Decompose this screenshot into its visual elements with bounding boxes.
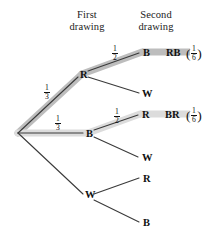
branch-w-to-b <box>94 200 139 222</box>
outcome-br-fraction: 1 6 <box>191 107 198 123</box>
branch-r-to-w <box>88 77 139 93</box>
edge-label-b-to-r: 1 2 <box>114 108 120 124</box>
outcome-br-denominator: 6 <box>191 116 197 124</box>
node-second-draw-r-from-w: R <box>143 173 151 184</box>
column-header-first-line2: drawing <box>56 21 118 33</box>
branch-b-to-w <box>94 137 138 157</box>
column-header-second-line2: drawing <box>121 21 191 33</box>
outcome-rb-close-paren: ) <box>197 48 202 59</box>
node-first-draw-b: B <box>86 128 93 139</box>
node-first-draw-r: R <box>80 69 88 80</box>
column-header-first-drawing: First drawing <box>56 9 118 33</box>
branch-w-to-r <box>94 178 139 194</box>
outcome-probability-br: ( 1 6 ) <box>186 107 202 123</box>
edge-label-root-to-b-denominator: 3 <box>55 124 61 132</box>
node-second-draw-w-from-r: W <box>142 88 153 99</box>
edge-label-root-to-b: 1 3 <box>55 115 61 131</box>
node-second-draw-b-from-r: B <box>143 47 150 58</box>
column-header-second-drawing: Second drawing <box>121 9 191 33</box>
probability-tree-diagram: First drawing Second drawing R B W B W R… <box>0 0 215 244</box>
outcome-label-rb: RB <box>166 47 181 58</box>
outcome-rb-denominator: 6 <box>191 54 197 62</box>
outcome-label-br: BR <box>165 109 180 120</box>
branch-root-to-w <box>18 133 83 194</box>
edge-label-root-to-r: 1 3 <box>44 84 50 100</box>
node-first-draw-w: W <box>85 189 96 200</box>
edge-label-b-to-r-denominator: 2 <box>114 117 120 125</box>
node-second-draw-b-from-w: B <box>143 217 150 228</box>
tree-branches-svg <box>0 0 215 244</box>
edge-label-r-to-b: 1 2 <box>112 45 118 61</box>
edge-label-root-to-r-denominator: 3 <box>44 93 50 101</box>
outcome-br-close-paren: ) <box>197 110 202 121</box>
column-header-first-line1: First <box>56 9 118 21</box>
outcome-probability-rb: ( 1 6 ) <box>186 45 202 61</box>
node-second-draw-w-from-b: W <box>142 152 153 163</box>
outcome-rb-fraction: 1 6 <box>191 45 198 61</box>
node-second-draw-r-from-b: R <box>142 109 150 120</box>
edge-label-r-to-b-denominator: 2 <box>112 54 118 62</box>
column-header-second-line1: Second <box>121 9 191 21</box>
